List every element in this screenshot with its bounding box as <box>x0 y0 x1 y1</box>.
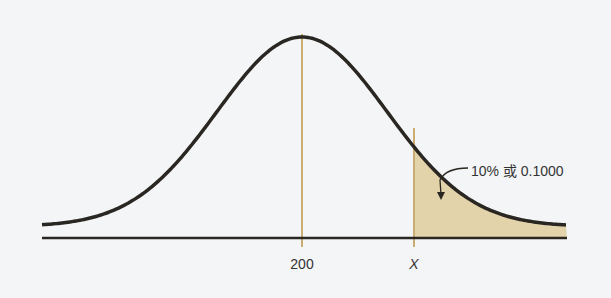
x-tick-label: X <box>409 256 418 272</box>
normal-curve <box>42 37 566 225</box>
normal-distribution-chart <box>0 0 611 298</box>
probability-annotation: 10% 或 0.1000 <box>471 160 564 180</box>
mean-tick-label: 200 <box>290 256 313 272</box>
